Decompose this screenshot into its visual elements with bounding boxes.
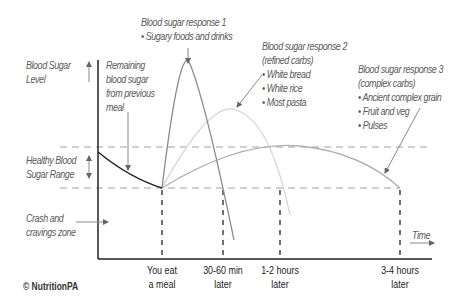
tick-3-4h: 3-4 hourslater xyxy=(376,263,424,291)
response3-curve xyxy=(162,145,400,188)
tick-meal: You eata meal xyxy=(141,263,184,291)
remaining-label: Remaining blood sugar from previous meal xyxy=(106,58,162,114)
response2-pointer-arrow-icon xyxy=(237,75,262,107)
copyright: © NutritionPA xyxy=(23,281,78,292)
response2-annotation: Blood sugar response 2 (refined carbs) W… xyxy=(262,39,347,109)
remaining-curve xyxy=(98,152,162,188)
healthy-range-label: Healthy Blood Sugar Range xyxy=(26,153,90,181)
x-axis-label: Time xyxy=(412,228,430,242)
tick-30-60min: 30-60 minlater xyxy=(199,263,247,291)
response3-annotation: Blood sugar response 3 (complex carbs) A… xyxy=(358,62,443,132)
tick-1-2h: 1-2 hourslater xyxy=(256,263,304,291)
crash-zone-label: Crash and cravings zone xyxy=(26,211,79,239)
response1-annotation: Blood sugar response 1 Sugary foods and … xyxy=(141,15,232,43)
y-axis-label: Blood Sugar Level xyxy=(26,58,77,86)
